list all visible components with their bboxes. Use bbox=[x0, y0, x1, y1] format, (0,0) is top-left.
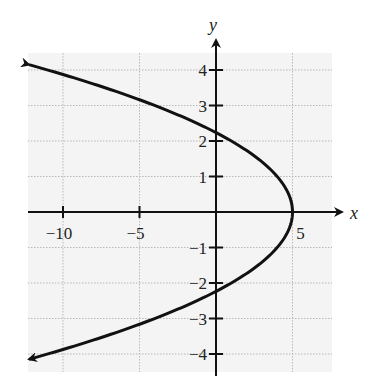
x-tick-label: −10 bbox=[46, 224, 73, 243]
y-tick-label: −1 bbox=[189, 239, 207, 258]
y-tick-label: −2 bbox=[189, 274, 207, 293]
x-axis-label: x bbox=[349, 203, 358, 223]
parabola-chart: −10−55−4−3−2−11234 x y bbox=[0, 0, 369, 386]
y-tick-label: −3 bbox=[189, 310, 207, 329]
x-tick-label: 5 bbox=[296, 224, 305, 243]
y-tick-label: −4 bbox=[189, 345, 208, 364]
y-tick-label: 4 bbox=[199, 61, 208, 80]
x-tick-label: −5 bbox=[126, 224, 144, 243]
y-tick-label: 3 bbox=[199, 97, 208, 116]
y-tick-label: 2 bbox=[199, 132, 208, 151]
y-tick-label: 1 bbox=[199, 168, 208, 187]
y-axis-label: y bbox=[207, 15, 217, 35]
